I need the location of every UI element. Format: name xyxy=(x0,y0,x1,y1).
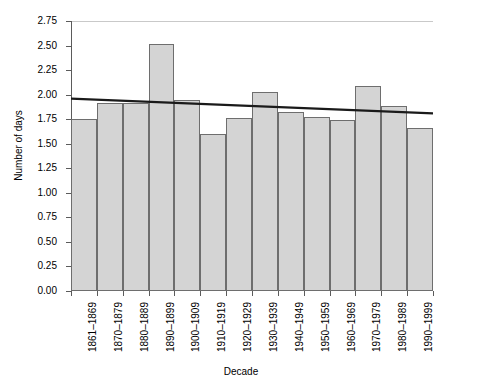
x-axis-title: Decade xyxy=(0,366,482,377)
x-tick-mark xyxy=(407,291,408,296)
x-tick-mark xyxy=(123,291,124,296)
x-tick-label: 1890–1899 xyxy=(166,302,176,352)
x-tick-mark xyxy=(174,291,175,296)
y-axis-title: Number of days xyxy=(13,91,24,201)
x-tick-mark xyxy=(330,291,331,296)
x-tick-label: 1920–1929 xyxy=(243,302,253,352)
x-tick-label: 1861–1869 xyxy=(88,302,98,352)
x-tick-label: 1960–1969 xyxy=(347,302,357,352)
x-tick-label: 1900–1909 xyxy=(191,302,201,352)
y-tick-mark xyxy=(66,46,71,47)
bar-chart: 0.000.250.500.751.001.251.501.752.002.25… xyxy=(0,0,482,383)
y-tick-mark xyxy=(66,193,71,194)
x-tick-label: 1980–1989 xyxy=(398,302,408,352)
x-tick-label: 1970–1979 xyxy=(372,302,382,352)
y-tick-mark xyxy=(66,21,71,22)
x-tick-label: 1880–1889 xyxy=(140,302,150,352)
y-tick-mark xyxy=(66,95,71,96)
trend-line xyxy=(71,21,433,291)
x-tick-mark xyxy=(226,291,227,296)
y-tick-mark xyxy=(66,217,71,218)
x-tick-mark xyxy=(381,291,382,296)
x-tick-label: 1940–1949 xyxy=(295,302,305,352)
y-tick-mark xyxy=(66,70,71,71)
x-tick-label: 1910–1919 xyxy=(217,302,227,352)
x-tick-mark xyxy=(304,291,305,296)
y-tick-mark xyxy=(66,242,71,243)
x-tick-mark xyxy=(355,291,356,296)
x-tick-label: 1930–1939 xyxy=(269,302,279,352)
y-tick-mark xyxy=(66,144,71,145)
x-tick-mark xyxy=(149,291,150,296)
x-tick-mark xyxy=(433,291,434,296)
x-tick-label: 1950–1959 xyxy=(321,302,331,352)
x-tick-mark xyxy=(278,291,279,296)
x-tick-label: 1870–1879 xyxy=(114,302,124,352)
x-tick-mark xyxy=(252,291,253,296)
x-tick-label: 1990–1999 xyxy=(424,302,434,352)
y-tick-mark xyxy=(66,168,71,169)
x-tick-mark xyxy=(97,291,98,296)
y-tick-mark xyxy=(66,119,71,120)
x-tick-mark xyxy=(200,291,201,296)
y-tick-mark xyxy=(66,266,71,267)
x-tick-mark xyxy=(71,291,72,296)
